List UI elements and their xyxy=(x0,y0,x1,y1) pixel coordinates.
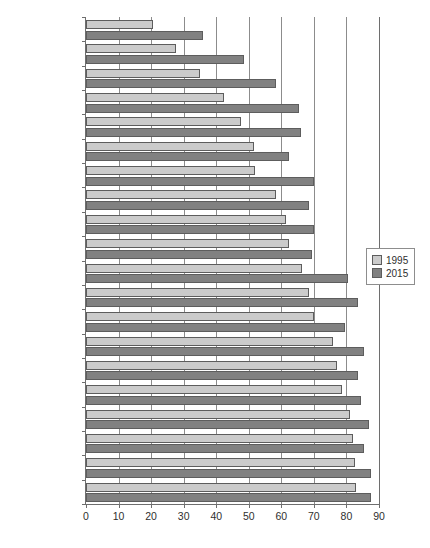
y-axis-tick xyxy=(82,187,86,188)
legend-swatch-icon xyxy=(372,255,382,265)
bar-1995 xyxy=(86,117,241,126)
bar-1995 xyxy=(86,458,355,467)
y-axis-tick xyxy=(82,358,86,359)
bar-group xyxy=(86,236,379,260)
y-axis-tick xyxy=(82,480,86,481)
bar-2015 xyxy=(86,444,364,453)
legend-item-1995[interactable]: 1995 xyxy=(372,254,408,266)
bar-1995 xyxy=(86,215,286,224)
bar-2015 xyxy=(86,493,371,502)
bar-1995 xyxy=(86,361,337,370)
y-axis-tick xyxy=(82,407,86,408)
bar-2015 xyxy=(86,128,301,137)
x-axis-tick-0 xyxy=(86,504,87,508)
bar-group xyxy=(86,407,379,431)
bar-chart: PortugalSpainItalyGreeceIrelandAustralia… xyxy=(0,0,430,548)
x-axis-tick-label-60: 60 xyxy=(275,510,287,522)
x-axis-tick-label-30: 30 xyxy=(178,510,190,522)
bar-1995 xyxy=(86,166,255,175)
legend-item-2015[interactable]: 2015 xyxy=(372,267,408,279)
bar-1995 xyxy=(86,69,200,78)
x-axis-tick-label-50: 50 xyxy=(243,510,255,522)
bar-2015 xyxy=(86,420,369,429)
x-axis-tick-label-0: 0 xyxy=(83,510,89,522)
y-axis-tick xyxy=(82,66,86,67)
y-axis-tick xyxy=(82,455,86,456)
x-axis-tick-80 xyxy=(346,504,347,508)
x-axis-tick-label-90: 90 xyxy=(373,510,385,522)
x-axis-tick-label-80: 80 xyxy=(341,510,353,522)
bar-2015 xyxy=(86,177,314,186)
bar-1995 xyxy=(86,337,333,346)
y-axis-tick xyxy=(82,236,86,237)
bar-1995 xyxy=(86,410,350,419)
bar-2015 xyxy=(86,274,348,283)
y-axis-tick xyxy=(82,90,86,91)
bar-group xyxy=(86,114,379,138)
x-axis-tick-40 xyxy=(216,504,217,508)
bar-group xyxy=(86,480,379,504)
bar-1995 xyxy=(86,93,224,102)
x-axis-tick-90 xyxy=(379,504,380,508)
plot-area: PortugalSpainItalyGreeceIrelandAustralia… xyxy=(85,17,380,505)
bar-group xyxy=(86,41,379,65)
bar-group xyxy=(86,163,379,187)
x-axis-tick-label-40: 40 xyxy=(210,510,222,522)
chart-title xyxy=(86,0,406,5)
bar-group xyxy=(86,17,379,41)
bar-2015 xyxy=(86,31,203,40)
bar-group xyxy=(86,261,379,285)
chart-legend: 19952015 xyxy=(366,248,415,285)
y-axis-tick xyxy=(82,431,86,432)
y-axis-tick xyxy=(82,163,86,164)
bar-2015 xyxy=(86,79,276,88)
bar-1995 xyxy=(86,385,342,394)
x-axis-tick-50 xyxy=(249,504,250,508)
bar-group xyxy=(86,382,379,406)
x-axis-tick-10 xyxy=(119,504,120,508)
y-axis-tick xyxy=(82,139,86,140)
x-axis-tick-20 xyxy=(151,504,152,508)
y-axis-tick xyxy=(82,41,86,42)
legend-swatch-icon xyxy=(372,268,382,278)
y-axis-tick xyxy=(82,382,86,383)
y-axis-tick xyxy=(82,212,86,213)
bar-2015 xyxy=(86,298,358,307)
bar-1995 xyxy=(86,190,276,199)
x-axis-tick-70 xyxy=(314,504,315,508)
bar-group xyxy=(86,455,379,479)
y-axis-tick xyxy=(82,309,86,310)
bar-1995 xyxy=(86,312,314,321)
bar-2015 xyxy=(86,55,244,64)
x-axis-tick-label-70: 70 xyxy=(308,510,320,522)
bar-1995 xyxy=(86,434,353,443)
bar-2015 xyxy=(86,152,289,161)
y-axis-tick xyxy=(82,17,86,18)
y-axis-tick xyxy=(82,285,86,286)
bar-group xyxy=(86,66,379,90)
bar-2015 xyxy=(86,469,371,478)
bar-group xyxy=(86,139,379,163)
bar-group xyxy=(86,285,379,309)
legend-label: 1995 xyxy=(386,255,408,266)
bar-group xyxy=(86,212,379,236)
bar-1995 xyxy=(86,142,254,151)
bar-2015 xyxy=(86,250,312,259)
bar-2015 xyxy=(86,347,364,356)
bar-1995 xyxy=(86,483,356,492)
bar-1995 xyxy=(86,44,176,53)
bar-1995 xyxy=(86,239,289,248)
y-axis-tick xyxy=(82,114,86,115)
x-axis-tick-label-20: 20 xyxy=(145,510,157,522)
bar-group xyxy=(86,309,379,333)
bar-1995 xyxy=(86,20,153,29)
bar-group xyxy=(86,358,379,382)
x-axis-tick-label-10: 10 xyxy=(113,510,125,522)
bar-group xyxy=(86,90,379,114)
bar-2015 xyxy=(86,104,299,113)
legend-label: 2015 xyxy=(386,268,408,279)
bar-1995 xyxy=(86,288,309,297)
bar-group xyxy=(86,334,379,358)
y-axis-tick xyxy=(82,334,86,335)
bar-2015 xyxy=(86,225,314,234)
